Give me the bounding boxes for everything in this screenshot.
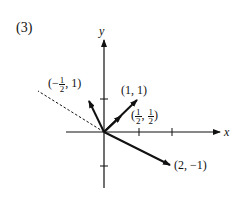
label-vector-2-neg1: (2, −1)	[174, 159, 207, 171]
label-vector-half-half: (12, 12)	[131, 108, 158, 125]
vector-half-half	[104, 116, 121, 132]
label-vector-neg-half-1: (−12, 1)	[48, 76, 81, 93]
y-axis-label: y	[99, 25, 104, 37]
vector-neg-half-1	[89, 101, 104, 132]
vector-2-neg1	[104, 132, 170, 165]
x-axis-label: x	[224, 126, 229, 138]
label-vector-1-1: (1, 1)	[121, 84, 147, 96]
